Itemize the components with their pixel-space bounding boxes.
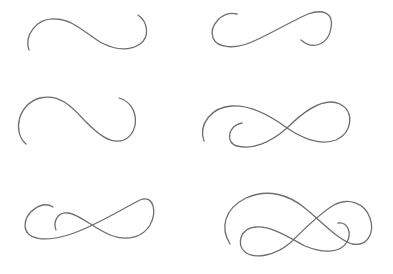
flourish-2-stroke — [212, 12, 331, 47]
flourish-6-stroke — [225, 193, 372, 256]
flourish-4-stroke — [203, 102, 350, 147]
flourish-group-6 — [225, 193, 372, 256]
flourish-5-stroke — [25, 199, 154, 239]
flourish-3-stroke — [18, 97, 135, 144]
flourish-group-2 — [212, 12, 331, 47]
flourish-canvas — [0, 0, 393, 274]
flourish-group-1 — [28, 15, 147, 50]
flourish-1-stroke — [28, 15, 147, 50]
flourish-group-3 — [18, 97, 135, 144]
flourish-group-4 — [203, 102, 350, 147]
flourish-group-5 — [25, 199, 154, 239]
